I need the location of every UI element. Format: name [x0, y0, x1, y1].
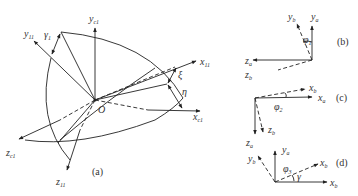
panel-c: xb xa φ2 za zb (c) — [245, 82, 347, 149]
label-y-a: ya — [310, 11, 318, 23]
label-z-a: za — [245, 137, 253, 149]
label-y-c1: yc1 — [88, 13, 99, 25]
eta-arrow — [168, 85, 182, 108]
panel-d: ya yb φ3 γ xb xb (d) — [247, 144, 348, 189]
axis-z-c1-dashed — [60, 100, 95, 120]
label-x-b-dashed: xb — [319, 157, 327, 169]
label-z-a: za — [244, 55, 252, 67]
label-x-a: xa — [317, 92, 325, 104]
caption-a: (a) — [92, 166, 103, 178]
label-z-b: zb — [244, 69, 252, 81]
caption-b: (b) — [337, 36, 349, 48]
panel-b: yb ya φ1 za zb (b) — [244, 11, 349, 81]
caption-c: (c) — [336, 92, 347, 104]
label-gamma: γ — [297, 171, 302, 182]
label-phi3: φ3 — [283, 163, 292, 175]
label-y-b: yb — [247, 153, 255, 165]
label-z-11: z11 — [55, 176, 65, 188]
axis-z-11 — [67, 130, 80, 170]
axis-z-c1 — [19, 120, 60, 139]
caption-d: (d) — [336, 157, 348, 169]
label-x-b: xb — [329, 177, 337, 189]
axis-z-b — [278, 60, 312, 70]
label-eta: η — [182, 86, 187, 97]
label-y-11: y11 — [23, 28, 34, 40]
coordinate-diagram: yc1 y11 γ1 x11 ξ η xc1 O zc1 z11 (a) yb … — [0, 0, 358, 196]
panel-a: yc1 y11 γ1 x11 ξ η xc1 O zc1 z11 (a) — [5, 13, 210, 188]
gamma1-arrow — [52, 34, 60, 54]
arc-top — [61, 32, 183, 98]
label-x-c1: xc1 — [192, 111, 203, 123]
arc-left — [46, 58, 70, 160]
axis-x-a — [255, 97, 312, 98]
axis-z-b — [255, 98, 263, 132]
label-origin: O — [98, 104, 105, 115]
label-z-c1: zc1 — [5, 147, 16, 159]
label-x-b: xb — [308, 82, 316, 94]
axis-y-b — [258, 156, 275, 182]
label-y-b: yb — [287, 11, 295, 23]
label-phi2: φ2 — [274, 101, 283, 113]
label-y-a: ya — [281, 144, 289, 156]
label-phi1: φ1 — [303, 34, 312, 46]
label-xi: ξ — [178, 69, 183, 81]
label-z-b: zb — [267, 124, 275, 136]
axis-y-11 — [34, 41, 95, 100]
origin-point — [93, 98, 96, 101]
angle-phi2-arc — [285, 93, 286, 97]
angle-gamma-arc — [292, 175, 294, 181]
line-o-lower — [58, 100, 95, 143]
label-gamma1: γ1 — [44, 29, 51, 41]
arc-lower-back — [60, 68, 155, 140]
axis-x-b — [255, 89, 305, 98]
line-o-top — [61, 32, 95, 100]
label-x-11: x11 — [199, 56, 210, 68]
